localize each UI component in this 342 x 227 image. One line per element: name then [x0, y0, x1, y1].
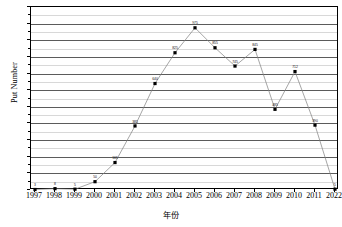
x-tick-mark [174, 189, 175, 192]
data-point-label: 712 [292, 65, 297, 69]
data-point-label: 825 [172, 46, 177, 50]
x-tick-mark [134, 189, 135, 192]
y-tick-mark [27, 156, 30, 157]
y-tick-mark-minor [28, 98, 30, 99]
y-tick-mark-minor [28, 147, 30, 148]
x-tick-label: 2022 [326, 191, 342, 200]
x-tick-label: 2008 [246, 191, 262, 200]
y-tick-mark [27, 39, 30, 40]
x-tick-label: 2000 [86, 191, 102, 200]
x-tick-label: 1997 [26, 191, 42, 200]
data-point-label: 5 [74, 183, 76, 187]
data-point-label: 50 [93, 175, 97, 179]
data-point-marker [193, 26, 196, 29]
x-tick-mark [234, 189, 235, 192]
x-tick-label: 1999 [66, 191, 82, 200]
x-tick-mark [274, 189, 275, 192]
y-tick-mark [27, 139, 30, 140]
x-tick-mark [34, 189, 35, 192]
data-point-marker [213, 46, 216, 49]
data-point-marker [273, 108, 276, 111]
x-tick-mark [254, 189, 255, 192]
x-tick-label: 2011 [306, 191, 322, 200]
y-tick-mark-minor [28, 14, 30, 15]
y-tick-mark-minor [28, 164, 30, 165]
y-tick-mark-minor [28, 81, 30, 82]
data-point-marker [153, 82, 156, 85]
data-point-label: 485 [272, 103, 277, 107]
x-tick-mark [294, 189, 295, 192]
x-tick-label: 2006 [206, 191, 222, 200]
series-polyline [35, 28, 335, 190]
y-tick-mark [27, 122, 30, 123]
x-tick-label: 2007 [226, 191, 242, 200]
y-tick-mark [27, 56, 30, 57]
y-tick-mark [27, 172, 30, 173]
data-point-label: 640 [152, 77, 157, 81]
y-tick-mark-minor [28, 181, 30, 182]
y-tick-mark [27, 6, 30, 7]
y-tick-mark-minor [28, 64, 30, 65]
x-tick-label: 2010 [286, 191, 302, 200]
x-tick-mark [314, 189, 315, 192]
plot-area: 385501653856408259758557458454857123905 [30, 6, 338, 189]
data-point-marker [253, 48, 256, 51]
y-tick-mark [27, 106, 30, 107]
y-tick-mark-minor [28, 131, 30, 132]
x-tick-mark [54, 189, 55, 192]
data-point-marker [173, 51, 176, 54]
data-point-label: 845 [252, 43, 257, 47]
x-tick-mark [334, 189, 335, 192]
data-point-label: 165 [112, 156, 117, 160]
x-tick-mark [154, 189, 155, 192]
x-tick-label: 2009 [266, 191, 282, 200]
y-tick-mark [27, 23, 30, 24]
data-point-label: 5 [334, 183, 336, 187]
x-tick-mark [94, 189, 95, 192]
y-tick-mark [27, 189, 30, 190]
x-tick-mark [114, 189, 115, 192]
x-tick-mark [74, 189, 75, 192]
x-tick-label: 2002 [126, 191, 142, 200]
data-point-marker [133, 124, 136, 127]
data-point-label: 8 [54, 182, 56, 186]
y-tick-mark-minor [28, 48, 30, 49]
x-axis-title: 年份 [0, 208, 341, 220]
x-tick-mark [214, 189, 215, 192]
data-point-marker [113, 161, 116, 164]
y-tick-mark [27, 89, 30, 90]
y-tick-mark-minor [28, 31, 30, 32]
x-tick-label: 2003 [146, 191, 162, 200]
data-series-line [31, 7, 339, 190]
data-point-marker [293, 70, 296, 73]
data-point-marker [313, 124, 316, 127]
data-point-label: 385 [132, 120, 137, 124]
x-tick-label: 1998 [46, 191, 62, 200]
data-point-label: 3 [34, 183, 36, 187]
x-tick-label: 2005 [186, 191, 202, 200]
x-tick-mark [194, 189, 195, 192]
y-axis-title: Put Number [10, 43, 19, 123]
data-point-label: 390 [312, 119, 317, 123]
data-point-marker [93, 180, 96, 183]
y-tick-mark-minor [28, 114, 30, 115]
data-point-label: 855 [212, 41, 217, 45]
x-tick-label: 2004 [166, 191, 182, 200]
data-point-label: 745 [232, 60, 237, 64]
x-tick-label: 2001 [106, 191, 122, 200]
data-point-marker [233, 64, 236, 67]
data-point-label: 975 [192, 21, 197, 25]
y-tick-mark [27, 73, 30, 74]
